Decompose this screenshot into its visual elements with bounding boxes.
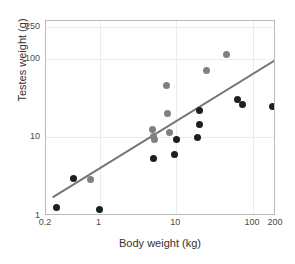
data-point [269, 103, 275, 110]
scatter-chart-figure: 0.2110100200 110100250 Body weight (kg) … [0, 0, 295, 264]
x-tick-label: 10 [170, 217, 180, 227]
data-point [196, 107, 203, 114]
y-tick-label: 1 [35, 210, 40, 220]
x-tick-label: 200 [267, 217, 282, 227]
data-point [239, 101, 246, 108]
data-point [150, 155, 157, 162]
data-point [70, 175, 77, 182]
data-point [87, 176, 94, 183]
plot-area [45, 20, 275, 215]
data-point [196, 121, 203, 128]
data-point [173, 136, 180, 143]
data-point [53, 204, 60, 211]
x-axis-title: Body weight (kg) [45, 237, 275, 249]
y-tick-label: 10 [30, 131, 40, 141]
x-tick-label: 0.2 [39, 217, 52, 227]
regression-line [46, 21, 275, 215]
x-tick-label: 100 [244, 217, 259, 227]
x-tick-label: 1 [96, 217, 101, 227]
y-axis-title: Testes weight (g) [16, 0, 28, 130]
data-point [223, 51, 230, 58]
data-point [194, 134, 201, 141]
